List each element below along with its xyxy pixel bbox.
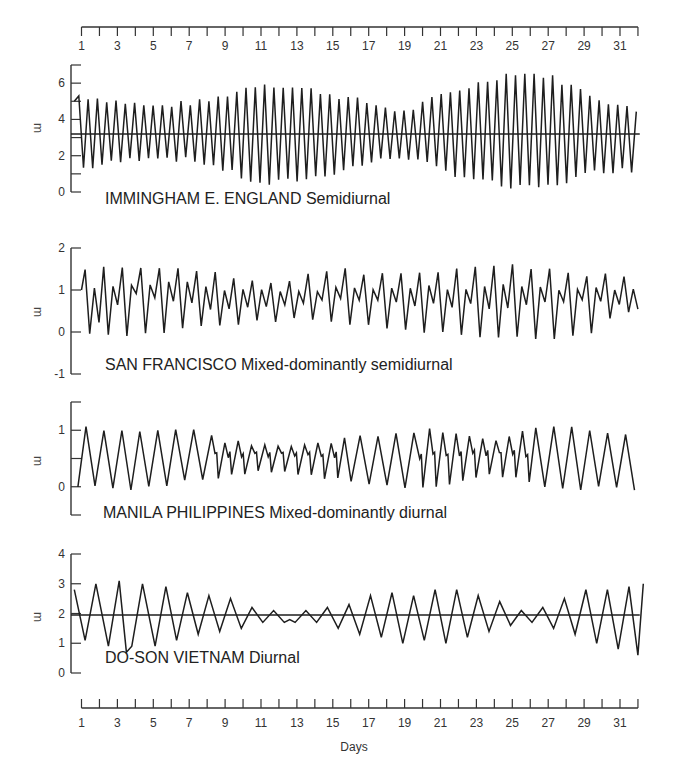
y-tick-label: 3 (58, 577, 65, 591)
day-tick-label: 3 (114, 716, 121, 730)
y-axis-unit-label: m (31, 456, 45, 466)
panel-title: SAN FRANCISCO Mixed-dominantly semidiurn… (105, 356, 453, 373)
day-tick-label: 19 (398, 716, 412, 730)
tide-curve (78, 427, 635, 491)
panel-2: -1012mSAN FRANCISCO Mixed-dominantly sem… (31, 241, 638, 381)
day-tick-label: 5 (150, 716, 157, 730)
day-tick-label: 25 (506, 39, 520, 53)
y-tick-label: 0 (58, 185, 65, 199)
x-axis-label: Days (340, 740, 367, 754)
y-tick-label: 1 (58, 283, 65, 297)
day-tick-label: 21 (434, 716, 448, 730)
day-tick-label: 23 (470, 39, 484, 53)
day-tick-label: 13 (290, 39, 304, 53)
y-tick-label: 4 (58, 112, 65, 126)
day-tick-label: 27 (542, 39, 556, 53)
y-tick-label: 2 (58, 149, 65, 163)
day-tick-label: 13 (290, 716, 304, 730)
day-tick-label: 7 (186, 39, 193, 53)
day-tick-label: 3 (114, 39, 121, 53)
panel-title: DO-SON VIETNAM Diurnal (105, 649, 300, 666)
day-tick-label: 31 (613, 716, 627, 730)
y-tick-label: 0 (58, 480, 65, 494)
y-tick-label: 1 (58, 636, 65, 650)
panel-1: 0246mIMMINGHAM E. ENGLAND Semidiurnal (31, 65, 640, 207)
day-tick-label: 1 (78, 716, 85, 730)
tide-panels: 0246mIMMINGHAM E. ENGLAND Semidiurnal-10… (31, 65, 643, 680)
y-tick-label: 0 (58, 325, 65, 339)
y-tick-label: 4 (58, 547, 65, 561)
day-tick-label: 31 (613, 39, 627, 53)
y-tick-label: 1 (58, 423, 65, 437)
top-day-axis: 135791113151719212325272931 (78, 27, 638, 53)
day-tick-label: 27 (542, 716, 556, 730)
day-tick-label: 17 (362, 39, 376, 53)
y-tick-label: 2 (58, 241, 65, 255)
tide-curve (74, 74, 636, 189)
y-axis-unit-label: m (31, 123, 45, 133)
tide-types-chart: 135791113151719212325272931 0246mIMMINGH… (0, 0, 674, 781)
day-tick-label: 21 (434, 39, 448, 53)
day-tick-label: 17 (362, 716, 376, 730)
day-tick-label: 19 (398, 39, 412, 53)
day-tick-label: 25 (506, 716, 520, 730)
bottom-day-axis: 135791113151719212325272931 (78, 699, 638, 730)
day-tick-label: 11 (255, 716, 268, 730)
y-tick-label: 6 (58, 76, 65, 90)
day-tick-label: 11 (255, 39, 268, 53)
day-tick-label: 23 (470, 716, 484, 730)
day-tick-label: 29 (577, 39, 591, 53)
y-axis-unit-label: m (31, 307, 45, 317)
y-tick-label: 2 (58, 607, 65, 621)
panel-3: 01mMANILA PHILIPPINES Mixed-dominantly d… (31, 402, 635, 521)
day-tick-label: 15 (326, 39, 340, 53)
panel-4: 01234mDO-SON VIETNAM Diurnal (31, 547, 643, 680)
day-tick-label: 15 (326, 716, 340, 730)
tide-curve (82, 264, 638, 339)
y-tick-label: -1 (54, 367, 65, 381)
panel-title: MANILA PHILIPPINES Mixed-dominantly diur… (103, 504, 447, 521)
day-tick-label: 7 (186, 716, 193, 730)
day-tick-label: 1 (78, 39, 85, 53)
day-tick-label: 9 (222, 39, 229, 53)
day-tick-label: 29 (577, 716, 591, 730)
tide-curve (74, 581, 643, 655)
y-tick-label: 0 (58, 666, 65, 680)
day-tick-label: 9 (222, 716, 229, 730)
day-tick-label: 5 (150, 39, 157, 53)
panel-title: IMMINGHAM E. ENGLAND Semidiurnal (105, 190, 390, 207)
y-axis-unit-label: m (31, 612, 45, 622)
